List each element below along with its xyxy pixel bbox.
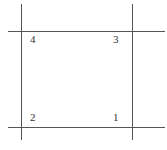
corner-label-bottom-left: 2 (30, 112, 36, 123)
bottom-horizontal-line (8, 127, 165, 128)
top-horizontal-line (8, 31, 165, 32)
corner-label-top-right: 3 (113, 34, 119, 45)
left-vertical-line (21, 4, 22, 140)
corner-label-bottom-right: 1 (113, 112, 119, 123)
right-vertical-line (132, 4, 133, 140)
corner-label-top-left: 4 (30, 34, 36, 45)
